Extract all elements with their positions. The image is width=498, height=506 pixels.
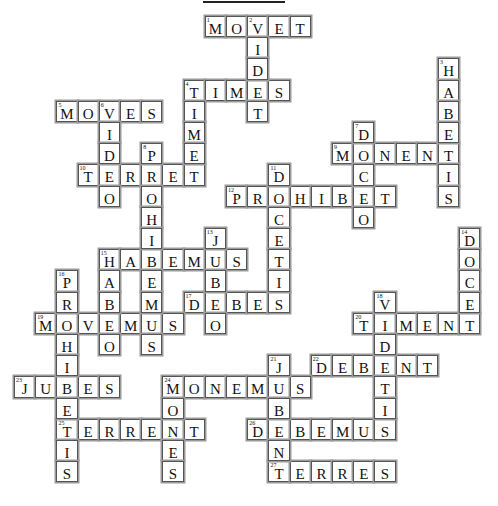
- crossword-cell[interactable]: A: [99, 270, 120, 291]
- crossword-cell[interactable]: N: [417, 143, 438, 164]
- crossword-cell[interactable]: E: [162, 249, 183, 270]
- crossword-cell[interactable]: E: [290, 461, 311, 482]
- crossword-cell[interactable]: A: [120, 249, 141, 270]
- crossword-cell[interactable]: E: [247, 292, 268, 313]
- crossword-cell[interactable]: H: [56, 334, 77, 355]
- crossword-cell[interactable]: 22D: [311, 355, 332, 376]
- crossword-cell[interactable]: E: [56, 398, 77, 419]
- crossword-cell[interactable]: R: [247, 186, 268, 207]
- crossword-cell[interactable]: N: [205, 376, 226, 397]
- crossword-cell[interactable]: E: [78, 376, 99, 397]
- crossword-cell[interactable]: I: [205, 80, 226, 101]
- crossword-cell[interactable]: D: [374, 334, 395, 355]
- crossword-cell[interactable]: I: [56, 440, 77, 461]
- crossword-cell[interactable]: C: [353, 164, 374, 185]
- crossword-cell[interactable]: T: [268, 249, 289, 270]
- crossword-cell[interactable]: 9M: [332, 143, 353, 164]
- crossword-cell[interactable]: N: [162, 419, 183, 440]
- crossword-cell[interactable]: C: [268, 207, 289, 228]
- crossword-cell[interactable]: S: [162, 461, 183, 482]
- crossword-cell[interactable]: R: [56, 292, 77, 313]
- crossword-cell[interactable]: I: [184, 101, 205, 122]
- crossword-cell[interactable]: E: [374, 355, 395, 376]
- crossword-cell[interactable]: T: [459, 313, 480, 334]
- crossword-cell[interactable]: S: [374, 461, 395, 482]
- crossword-cell[interactable]: 19M: [35, 313, 56, 334]
- crossword-cell[interactable]: A: [438, 80, 459, 101]
- crossword-cell[interactable]: E: [99, 313, 120, 334]
- crossword-cell[interactable]: 23J: [14, 376, 35, 397]
- crossword-cell[interactable]: O: [226, 16, 247, 37]
- crossword-cell[interactable]: S: [226, 249, 247, 270]
- crossword-cell[interactable]: O: [353, 143, 374, 164]
- crossword-cell[interactable]: S: [268, 292, 289, 313]
- crossword-cell[interactable]: E: [353, 461, 374, 482]
- crossword-cell[interactable]: O: [459, 249, 480, 270]
- crossword-cell[interactable]: S: [438, 186, 459, 207]
- crossword-cell[interactable]: I: [311, 186, 332, 207]
- crossword-cell[interactable]: C: [459, 270, 480, 291]
- crossword-cell[interactable]: T: [184, 164, 205, 185]
- crossword-cell[interactable]: E: [120, 101, 141, 122]
- crossword-cell[interactable]: 21J: [268, 355, 289, 376]
- crossword-cell[interactable]: E: [268, 16, 289, 37]
- crossword-cell[interactable]: B: [290, 419, 311, 440]
- crossword-cell[interactable]: E: [459, 292, 480, 313]
- crossword-cell[interactable]: E: [99, 164, 120, 185]
- crossword-cell[interactable]: B: [332, 186, 353, 207]
- crossword-cell[interactable]: U: [141, 313, 162, 334]
- crossword-cell[interactable]: 4T: [184, 80, 205, 101]
- crossword-cell[interactable]: S: [162, 313, 183, 334]
- crossword-cell[interactable]: M: [184, 122, 205, 143]
- crossword-cell[interactable]: 25T: [56, 419, 77, 440]
- crossword-cell[interactable]: N: [396, 355, 417, 376]
- crossword-cell[interactable]: E: [184, 143, 205, 164]
- crossword-cell[interactable]: 16P: [56, 270, 77, 291]
- crossword-cell[interactable]: R: [120, 419, 141, 440]
- crossword-cell[interactable]: E: [268, 228, 289, 249]
- crossword-cell[interactable]: B: [268, 398, 289, 419]
- crossword-cell[interactable]: B: [141, 249, 162, 270]
- crossword-cell[interactable]: S: [290, 376, 311, 397]
- crossword-cell[interactable]: T: [247, 101, 268, 122]
- crossword-cell[interactable]: M: [247, 376, 268, 397]
- crossword-cell[interactable]: 12P: [226, 186, 247, 207]
- crossword-cell[interactable]: E: [332, 355, 353, 376]
- crossword-cell[interactable]: 10T: [78, 164, 99, 185]
- crossword-cell[interactable]: 7D: [353, 122, 374, 143]
- crossword-cell[interactable]: E: [353, 186, 374, 207]
- crossword-cell[interactable]: R: [99, 419, 120, 440]
- crossword-cell[interactable]: U: [268, 376, 289, 397]
- crossword-cell[interactable]: R: [141, 164, 162, 185]
- crossword-cell[interactable]: S: [141, 334, 162, 355]
- crossword-cell[interactable]: O: [78, 101, 99, 122]
- crossword-cell[interactable]: O: [99, 334, 120, 355]
- crossword-cell[interactable]: S: [268, 80, 289, 101]
- crossword-cell[interactable]: 24M: [162, 376, 183, 397]
- crossword-cell[interactable]: N: [374, 143, 395, 164]
- crossword-cell[interactable]: U: [353, 419, 374, 440]
- crossword-cell[interactable]: E: [396, 143, 417, 164]
- crossword-cell[interactable]: M: [184, 249, 205, 270]
- crossword-cell[interactable]: 18V: [374, 292, 395, 313]
- crossword-cell[interactable]: T: [417, 355, 438, 376]
- crossword-cell[interactable]: H: [290, 186, 311, 207]
- crossword-cell[interactable]: V: [78, 313, 99, 334]
- crossword-cell[interactable]: O: [141, 186, 162, 207]
- crossword-cell[interactable]: E: [141, 270, 162, 291]
- crossword-cell[interactable]: O: [205, 313, 226, 334]
- crossword-cell[interactable]: T: [374, 376, 395, 397]
- crossword-cell[interactable]: I: [56, 355, 77, 376]
- crossword-cell[interactable]: B: [353, 355, 374, 376]
- crossword-cell[interactable]: I: [141, 228, 162, 249]
- crossword-cell[interactable]: B: [226, 292, 247, 313]
- crossword-cell[interactable]: 6V: [99, 101, 120, 122]
- crossword-cell[interactable]: R: [332, 461, 353, 482]
- crossword-cell[interactable]: I: [268, 270, 289, 291]
- crossword-cell[interactable]: O: [56, 313, 77, 334]
- crossword-cell[interactable]: E: [311, 419, 332, 440]
- crossword-cell[interactable]: E: [141, 419, 162, 440]
- crossword-cell[interactable]: S: [141, 101, 162, 122]
- crossword-cell[interactable]: T: [374, 186, 395, 207]
- crossword-cell[interactable]: 5M: [56, 101, 77, 122]
